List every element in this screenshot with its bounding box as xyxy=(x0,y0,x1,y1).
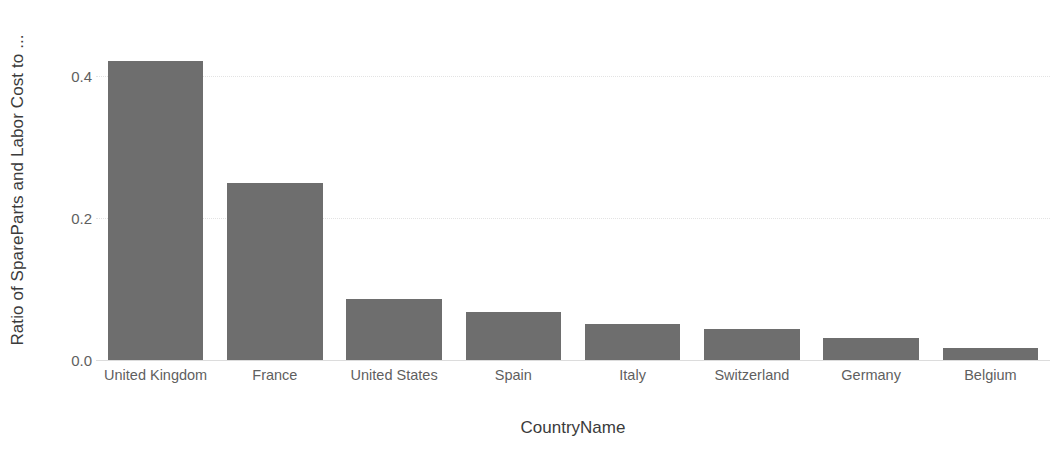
x-tick-label-germany: Germany xyxy=(817,366,924,385)
bar-france[interactable] xyxy=(227,183,322,360)
bar-germany[interactable] xyxy=(823,338,918,360)
x-tick-label-switzerland: Switzerland xyxy=(698,366,805,385)
bar-belgium[interactable] xyxy=(943,348,1038,360)
x-axis-title: CountryName xyxy=(96,418,1050,438)
bars-layer xyxy=(96,0,1050,360)
y-tick-label-0.0: 0.0 xyxy=(40,352,92,369)
y-axis-title: Ratio of SpareParts and Labor Cost to ..… xyxy=(0,0,36,380)
bar-united-states[interactable] xyxy=(346,299,441,360)
x-tick-label-united-states: United States xyxy=(340,366,447,385)
y-tick-label-0.4: 0.4 xyxy=(40,68,92,85)
x-axis-line xyxy=(96,360,1050,361)
x-tick-label-belgium: Belgium xyxy=(937,366,1044,385)
bar-chart: Ratio of SpareParts and Labor Cost to ..… xyxy=(0,0,1060,457)
x-axis-tick-labels: United Kingdom France United States Spai… xyxy=(96,366,1050,412)
x-tick-label-france: France xyxy=(221,366,328,385)
y-axis-title-text: Ratio of SpareParts and Labor Cost to ..… xyxy=(8,34,28,345)
bar-united-kingdom[interactable] xyxy=(108,61,203,360)
y-tick-label-0.2: 0.2 xyxy=(40,210,92,227)
x-tick-label-united-kingdom: United Kingdom xyxy=(102,366,209,385)
bar-spain[interactable] xyxy=(466,312,561,360)
bar-switzerland[interactable] xyxy=(704,329,799,360)
x-tick-label-spain: Spain xyxy=(460,366,567,385)
x-tick-label-italy: Italy xyxy=(579,366,686,385)
bar-italy[interactable] xyxy=(585,324,680,360)
y-axis-tick-labels: 0.4 0.2 0.0 xyxy=(36,0,92,457)
